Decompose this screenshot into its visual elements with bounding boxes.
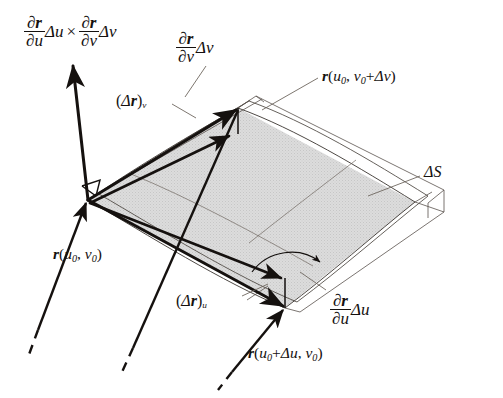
diagram-artwork	[0, 0, 503, 398]
v-symbol: v	[85, 245, 92, 262]
cross-symbol: ×	[63, 22, 79, 41]
delta-symbol: Δ	[181, 292, 190, 309]
u-symbol: u	[333, 67, 341, 84]
delta-v-term: Δv	[196, 38, 214, 57]
label-delta-S: ΔS	[424, 164, 441, 180]
label-r-u0-plus-du-v0: r(u0+Δu, v0)	[248, 345, 323, 363]
u-symbol: u	[259, 344, 267, 361]
leader-delta-r-v	[172, 104, 196, 118]
delta-v-term: Δv	[375, 67, 391, 84]
delta-v-term: Δv	[99, 22, 117, 41]
fraction-partial-r-partial-v: ∂r ∂v	[79, 14, 99, 50]
v-symbol: v	[354, 67, 361, 84]
label-r-u0-v0: r(u0, v0)	[53, 246, 102, 264]
leader-partial-v	[185, 66, 206, 97]
label-delta-r-v: (Δr)v	[116, 93, 146, 110]
paren-close: )	[391, 67, 396, 84]
leader-r0dv	[262, 78, 318, 110]
subscript-u: u	[202, 300, 207, 310]
fraction-partial-r-partial-u: ∂r ∂u	[24, 14, 45, 50]
S-symbol: S	[433, 163, 441, 180]
plus-symbol: +	[272, 344, 281, 361]
label-partial-u-du: ∂r ∂u Δu	[330, 292, 369, 328]
normal-vector	[73, 66, 88, 200]
delta-symbol: Δ	[424, 163, 433, 180]
paren-close: )	[97, 245, 102, 262]
delta-u-term: Δu	[45, 22, 63, 41]
paren-close: )	[317, 344, 322, 361]
comma: ,	[77, 245, 81, 262]
position-vector-r00	[27, 203, 86, 360]
label-r-u0-v0-plus-dv: r(u0, v0+Δv)	[322, 68, 396, 86]
tangent-plane-patch	[88, 108, 415, 308]
figure-canvas: ∂r ∂u Δu× ∂r ∂v Δv ∂r ∂v Δv ∂r ∂u Δu (Δr…	[0, 0, 503, 398]
subscript-v: v	[142, 100, 146, 110]
fraction-partial-r-partial-u: ∂r ∂u	[330, 292, 351, 328]
u-symbol: u	[64, 245, 72, 262]
plus-symbol: +	[366, 67, 375, 84]
label-normal-cross-product: ∂r ∂u Δu× ∂r ∂v Δv	[24, 14, 116, 50]
label-partial-v-dv: ∂r ∂v Δv	[176, 30, 213, 66]
fraction-partial-r-partial-v: ∂r ∂v	[176, 30, 196, 66]
delta-u-term: Δu	[281, 344, 298, 361]
label-delta-r-u: (Δr)u	[176, 293, 207, 310]
comma: ,	[298, 344, 302, 361]
delta-u-term: Δu	[351, 300, 369, 319]
delta-symbol: Δ	[121, 92, 130, 109]
comma: ,	[346, 67, 350, 84]
